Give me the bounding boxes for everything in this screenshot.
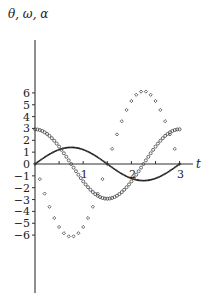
alpha-point — [62, 232, 65, 235]
alpha-point — [48, 205, 51, 208]
omega-point — [67, 159, 70, 162]
alpha-point — [67, 235, 70, 238]
omega-point — [140, 166, 143, 169]
omega-point — [156, 142, 159, 145]
omega-point — [127, 183, 130, 186]
y-tick-label: −5 — [14, 217, 30, 230]
y-tick-label: −6 — [14, 229, 30, 242]
y-tick-label: −2 — [14, 182, 30, 195]
alpha-point — [159, 108, 162, 111]
alpha-point — [86, 216, 89, 219]
y-tick-label: −3 — [14, 194, 30, 207]
omega-point — [152, 148, 155, 151]
omega-point — [74, 170, 77, 173]
alpha-point — [82, 225, 85, 228]
y-tick-label: 0 — [23, 158, 30, 171]
omega-point — [53, 139, 56, 142]
alpha-point — [144, 90, 147, 93]
omega-point — [58, 145, 61, 148]
alpha-point — [135, 93, 138, 96]
alpha-point — [101, 178, 104, 181]
alpha-point — [154, 99, 157, 102]
y-tick-label: 1 — [23, 146, 30, 159]
x-tick-label: 3 — [177, 168, 184, 181]
omega-point — [147, 155, 150, 158]
alpha-point — [164, 120, 167, 123]
alpha-point — [120, 120, 123, 123]
alpha-point — [53, 216, 56, 219]
omega-point — [72, 166, 75, 169]
alpha-point — [125, 108, 128, 111]
omega-point — [50, 137, 53, 140]
omega-point — [154, 145, 157, 148]
y-tick-label: −4 — [14, 205, 30, 218]
alpha-point — [43, 192, 46, 195]
alpha-point — [149, 93, 152, 96]
omega-point — [144, 159, 147, 162]
alpha-point — [130, 99, 133, 102]
alpha-point — [38, 178, 41, 181]
chart-plot: −6−5−4−3−2−10123456123 t — [0, 0, 211, 302]
alpha-point — [115, 133, 118, 136]
y-tick-label: 4 — [23, 111, 30, 124]
omega-point — [123, 188, 126, 191]
x-axis-title: t — [196, 157, 201, 171]
y-tick-label: −1 — [14, 170, 30, 183]
omega-point — [149, 152, 152, 155]
omega-point — [62, 152, 65, 155]
axes: −6−5−4−3−2−10123456123 — [14, 40, 193, 293]
alpha-point — [58, 225, 61, 228]
omega-point — [137, 170, 140, 173]
y-tick-label: 3 — [23, 122, 30, 135]
omega-point — [55, 142, 58, 145]
alpha-point — [139, 90, 142, 93]
alpha-point — [77, 232, 80, 235]
alpha-point — [111, 147, 114, 150]
omega-point — [84, 183, 87, 186]
alpha-point — [91, 205, 94, 208]
alpha-point — [72, 235, 75, 238]
y-tick-label: 6 — [23, 87, 30, 100]
omega-point — [87, 186, 90, 189]
alpha-point — [173, 147, 176, 150]
omega-point — [77, 173, 80, 176]
y-tick-label: 2 — [23, 134, 30, 147]
omega-point — [65, 155, 68, 158]
omega-point — [159, 139, 162, 142]
omega-point — [125, 186, 128, 189]
y-tick-label: 5 — [23, 99, 30, 112]
